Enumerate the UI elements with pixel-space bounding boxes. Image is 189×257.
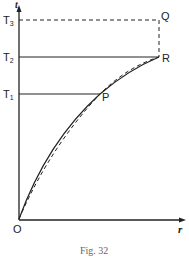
tick-t1-name: T (3, 88, 10, 100)
point-r-label: R (162, 53, 170, 64)
tick-t1-sub: 1 (10, 94, 14, 101)
x-axis-label: r (178, 224, 182, 235)
tick-t2-name: T (3, 51, 10, 63)
tick-t1: T1 (3, 89, 14, 103)
figure-caption: Fig. 32 (80, 245, 108, 256)
tick-t3: T3 (3, 15, 14, 29)
point-p-label: P (102, 92, 109, 103)
dashed-curve (19, 57, 159, 219)
origin-label: O (13, 224, 22, 235)
solid-curve (19, 57, 159, 219)
tick-t2: T2 (3, 52, 14, 66)
tick-t3-name: T (3, 14, 10, 26)
y-axis-label: t (15, 0, 18, 10)
diagram-canvas (0, 0, 189, 257)
tick-t2-sub: 2 (10, 57, 14, 64)
x-axis-arrow-icon (179, 218, 186, 223)
tick-t3-sub: 3 (10, 20, 14, 27)
point-q-label: Q (161, 11, 170, 22)
